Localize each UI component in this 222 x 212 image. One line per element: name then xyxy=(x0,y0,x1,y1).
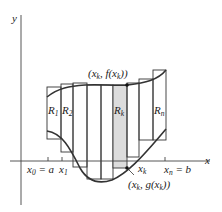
x-ticks xyxy=(48,157,165,161)
rect-label-r2: R2 xyxy=(61,104,73,118)
rectangle-r2 xyxy=(61,84,73,152)
pointer-arrow xyxy=(128,169,134,175)
rectangle-r4 xyxy=(87,85,101,179)
tick-label-x0: x0 = a xyxy=(26,163,55,177)
rectangle-r3 xyxy=(73,83,87,167)
rectangle-r8 xyxy=(139,79,153,140)
tick-label-xk: xk xyxy=(137,162,147,176)
point-label-f: (xk, f(xk)) xyxy=(88,67,128,81)
riemann-rectangles xyxy=(47,70,166,179)
rect-label-rn: Rn xyxy=(153,104,165,118)
y-axis-label: y xyxy=(11,12,17,24)
rectangle-rk xyxy=(113,85,127,168)
tick-label-x1: x1 xyxy=(58,163,68,177)
tick-label-xn: xn = b xyxy=(163,163,192,177)
area-between-curves-diagram: y x x0 = a x1 xk xn = b (xk, f(xk)) (xk,… xyxy=(0,0,222,212)
rectangle-r7 xyxy=(127,83,139,157)
rectangle-r5 xyxy=(101,85,113,179)
x-axis-label: x xyxy=(204,154,210,166)
rect-label-r1: R1 xyxy=(47,104,58,118)
point-f-xk xyxy=(125,83,129,87)
point-label-g: (xk, g(xk)) xyxy=(128,178,170,192)
